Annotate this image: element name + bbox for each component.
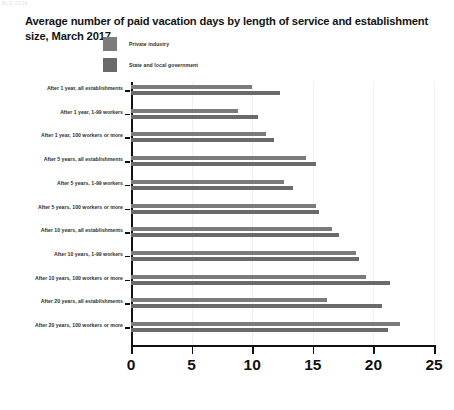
y-axis-category-label: After 1 year, all establishments bbox=[0, 85, 123, 91]
y-axis-category-label: After 20 years, 100 workers or more bbox=[0, 322, 123, 328]
y-axis-tick bbox=[125, 232, 130, 234]
x-axis-tick bbox=[131, 345, 133, 354]
y-axis-category-label: After 10 years, 1-99 workers bbox=[0, 251, 123, 257]
bar-private-industry[interactable] bbox=[131, 227, 332, 231]
bar-private-industry[interactable] bbox=[131, 156, 306, 160]
bar-state-local-government[interactable] bbox=[131, 281, 390, 285]
y-axis-tick bbox=[125, 90, 130, 92]
x-axis-tick bbox=[252, 345, 254, 354]
bar-state-local-government[interactable] bbox=[131, 162, 316, 166]
x-axis-tick bbox=[313, 345, 315, 354]
bar-state-local-government[interactable] bbox=[131, 257, 359, 261]
bar-private-industry[interactable] bbox=[131, 275, 366, 279]
bar-state-local-government[interactable] bbox=[131, 91, 280, 95]
y-axis-tick bbox=[125, 185, 130, 187]
x-axis-tick-label: 20 bbox=[353, 356, 393, 374]
bar-private-industry[interactable] bbox=[131, 180, 284, 184]
bar-private-industry[interactable] bbox=[131, 251, 356, 255]
x-axis-tick bbox=[434, 345, 436, 354]
legend-label: State and local government bbox=[129, 62, 198, 68]
bar-state-local-government[interactable] bbox=[131, 115, 258, 119]
bar-state-local-government[interactable] bbox=[131, 304, 382, 308]
bar-state-local-government[interactable] bbox=[131, 210, 319, 214]
bar-state-local-government[interactable] bbox=[131, 186, 293, 190]
y-axis-category-label: After 20 years, all establishments bbox=[0, 298, 123, 304]
x-axis-tick-label: 25 bbox=[414, 356, 454, 374]
y-axis-tick bbox=[125, 161, 130, 163]
bar-private-industry[interactable] bbox=[131, 298, 327, 302]
y-axis-category-label: After 10 years, 100 workers or more bbox=[0, 275, 123, 281]
y-axis-tick bbox=[125, 280, 130, 282]
bar-private-industry[interactable] bbox=[131, 109, 238, 113]
x-axis-tick-label: 0 bbox=[111, 356, 151, 374]
y-axis-category-label: After 5 years, 1-99 workers bbox=[0, 180, 123, 186]
x-axis-tick bbox=[192, 345, 194, 354]
legend-swatch-icon bbox=[103, 37, 117, 51]
gridline bbox=[434, 82, 435, 345]
y-axis-category-label: After 1 year, 100 workers or more bbox=[0, 132, 123, 138]
plot-area: After 1 year, all establishmentsAfter 1 … bbox=[131, 82, 434, 345]
bar-chart: Average number of paid vacation days by … bbox=[0, 0, 454, 410]
y-axis-category-label: After 5 years, 100 workers or more bbox=[0, 204, 123, 210]
bar-private-industry[interactable] bbox=[131, 85, 252, 89]
legend-label: Private industry bbox=[129, 41, 169, 47]
y-axis-category-label: After 1 year, 1-99 workers bbox=[0, 109, 123, 115]
y-axis-tick bbox=[125, 256, 130, 258]
chart-title: Average number of paid vacation days by … bbox=[25, 14, 435, 44]
y-axis-category-label: After 10 years, all establishments bbox=[0, 227, 123, 233]
bar-state-local-government[interactable] bbox=[131, 328, 388, 332]
x-axis-tick-label: 15 bbox=[293, 356, 333, 374]
bar-private-industry[interactable] bbox=[131, 132, 266, 136]
bar-private-industry[interactable] bbox=[131, 322, 400, 326]
legend-item-state-local-government[interactable]: State and local government bbox=[103, 57, 198, 73]
y-axis-tick bbox=[125, 303, 130, 305]
bar-state-local-government[interactable] bbox=[131, 233, 339, 237]
bar-state-local-government[interactable] bbox=[131, 138, 274, 142]
legend-swatch-icon bbox=[103, 58, 117, 72]
y-axis-tick bbox=[125, 114, 130, 116]
bar-private-industry[interactable] bbox=[131, 204, 316, 208]
chart-legend: Private industryState and local governme… bbox=[103, 36, 198, 78]
y-axis-tick bbox=[125, 209, 130, 211]
x-axis-tick bbox=[373, 345, 375, 354]
x-axis-line bbox=[131, 345, 435, 347]
x-axis-tick-label: 5 bbox=[172, 356, 212, 374]
x-axis-tick-label: 10 bbox=[232, 356, 272, 374]
legend-item-private-industry[interactable]: Private industry bbox=[103, 36, 198, 52]
y-axis-tick bbox=[125, 327, 130, 329]
y-axis-category-label: After 5 years, all establishments bbox=[0, 156, 123, 162]
y-axis-tick bbox=[125, 137, 130, 139]
